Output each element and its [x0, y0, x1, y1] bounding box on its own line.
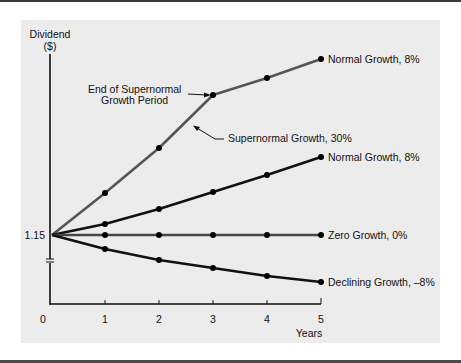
annotation-supernormal: Supernormal Growth, 30% — [228, 132, 352, 144]
marker — [318, 279, 324, 285]
marker — [210, 265, 216, 271]
annotation-arrow-line — [188, 94, 206, 95]
label-normal: Normal Growth, 8% — [328, 151, 420, 163]
marker — [210, 232, 216, 238]
marker — [264, 75, 270, 81]
label-zero: Zero Growth, 0% — [328, 229, 407, 241]
marker — [102, 221, 108, 227]
x-axis-title: Years — [296, 327, 322, 339]
marker — [318, 232, 324, 238]
marker — [156, 257, 162, 263]
x-tick-label-1: 1 — [102, 313, 108, 325]
marker — [318, 56, 324, 62]
label-declining: Declining Growth, –8% — [328, 276, 435, 288]
marker — [210, 189, 216, 195]
marker — [156, 145, 162, 151]
x-tick-label-3: 3 — [210, 313, 216, 325]
series-declining-line — [52, 235, 321, 282]
marker — [318, 154, 324, 160]
x-tick-label-4: 4 — [264, 313, 270, 325]
y-axis-title-line1: Dividend — [30, 28, 71, 40]
dividend-growth-chart: Dividend ($) 1.15 0 1 2 3 4 5 Years Norm… — [0, 0, 461, 363]
y-axis-title-line2: ($) — [44, 40, 57, 52]
marker — [264, 273, 270, 279]
marker — [264, 232, 270, 238]
annotation-end-supernormal-line2: Growth Period — [101, 94, 168, 106]
marker — [264, 172, 270, 178]
marker — [102, 232, 108, 238]
arrow-head-icon — [193, 126, 200, 132]
x-tick-label-0: 0 — [40, 313, 46, 325]
annotation-leader-line — [197, 128, 224, 139]
label-super-end: Normal Growth, 8% — [328, 53, 420, 65]
marker — [102, 246, 108, 252]
marker — [156, 232, 162, 238]
marker — [156, 206, 162, 212]
x-tick-label-5: 5 — [318, 313, 324, 325]
y-tick-label: 1.15 — [25, 229, 46, 241]
series-normal-line — [52, 157, 321, 235]
marker — [102, 190, 108, 196]
x-tick-label-2: 2 — [156, 313, 162, 325]
